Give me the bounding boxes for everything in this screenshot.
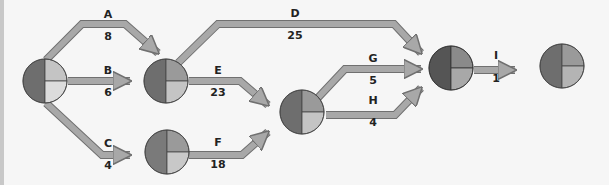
activity-duration-B: 6 [104,86,112,99]
node-5 [429,46,473,90]
activity-duration-G: 5 [369,74,377,87]
activity-name-B: B [104,64,112,77]
activity-name-D: D [290,7,299,20]
arrow-A [46,24,158,60]
activity-name-H: H [368,94,377,107]
activity-name-I: I [494,49,498,62]
activity-duration-D: 25 [287,29,302,42]
node-start [23,59,67,103]
node-2 [144,59,188,103]
node-3 [145,130,189,174]
network-diagram: A 8 B 6 C 4 D 25 E 23 F 18 G 5 H 4 I 1 [0,0,609,185]
arrow-G [313,69,421,103]
activity-duration-E: 23 [210,86,225,99]
node-end [540,44,584,88]
activity-name-E: E [214,64,222,77]
activity-name-G: G [368,52,377,65]
activity-name-C: C [104,137,112,150]
activity-name-F: F [214,136,222,149]
activity-duration-A: 8 [104,30,112,43]
activity-duration-H: 4 [369,116,377,129]
activity-duration-C: 4 [104,159,112,172]
activity-duration-I: 1 [492,72,500,85]
activity-duration-F: 18 [210,158,225,171]
activity-name-A: A [104,8,113,21]
node-4 [280,90,324,134]
